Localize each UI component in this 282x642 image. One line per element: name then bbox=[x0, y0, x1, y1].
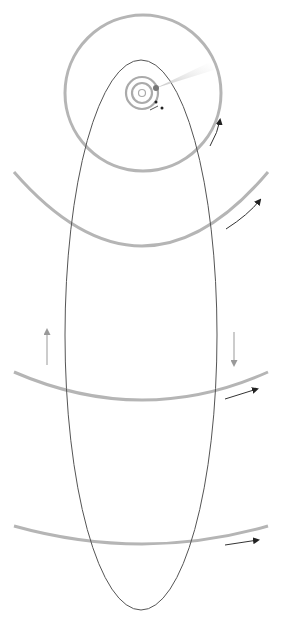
sun-icon bbox=[139, 90, 146, 97]
orbit-ring-2 bbox=[14, 372, 268, 400]
comet-direction-arrows bbox=[47, 330, 234, 365]
comet-tail bbox=[156, 62, 214, 88]
arrow-orbit-2 bbox=[225, 389, 257, 399]
planet-orbits bbox=[14, 15, 268, 544]
inner-system bbox=[126, 77, 158, 109]
planet-dot-2 bbox=[161, 107, 164, 110]
orbit-ring-1 bbox=[14, 172, 268, 246]
diagram-canvas bbox=[0, 0, 282, 642]
comet-icon bbox=[153, 85, 159, 91]
planet-dot-1 bbox=[155, 101, 158, 104]
inner-orbit-2 bbox=[132, 83, 152, 103]
inner-orbit-1 bbox=[126, 77, 158, 109]
arrow-orbit-3 bbox=[225, 540, 258, 545]
comet-orbit bbox=[65, 60, 217, 610]
comet-orbit-diagram bbox=[0, 0, 282, 642]
orbit-ring-3 bbox=[14, 526, 268, 544]
motion-arrows bbox=[210, 120, 260, 545]
outer-orbit-circle bbox=[65, 15, 221, 171]
arrow-orbit-1 bbox=[226, 200, 260, 229]
